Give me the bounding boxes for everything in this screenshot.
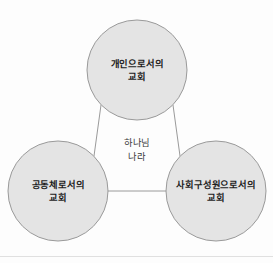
circle-community-church[interactable] — [8, 141, 108, 241]
circle-social-member-church[interactable] — [166, 141, 266, 241]
connector-top-to-left — [94, 105, 101, 156]
diagram-canvas: 개인으로서의 교회 공동체로서의 교회 사회구성원으로서의 교회 하나님 나라 — [0, 0, 273, 263]
bottom-divider — [0, 256, 273, 257]
connector-top-to-right — [173, 105, 180, 156]
circle-individual-church[interactable] — [87, 20, 187, 120]
diagram-graphics — [0, 0, 273, 263]
